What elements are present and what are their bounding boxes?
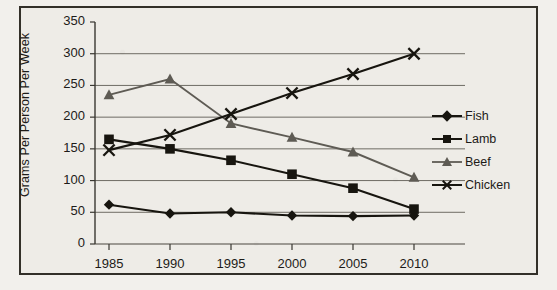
- x-tick-label: 1985: [79, 256, 139, 271]
- chart-legend: Fish Lamb Beef Chicken: [432, 104, 510, 196]
- legend-label-chicken: Chicken: [465, 178, 510, 192]
- legend-label-lamb: Lamb: [465, 132, 496, 146]
- legend-item-fish: Fish: [432, 104, 510, 127]
- y-tick-label: 200: [41, 108, 85, 123]
- legend-item-beef: Beef: [432, 150, 510, 173]
- x-tick-label: 1995: [201, 256, 261, 271]
- y-tick-label: 150: [41, 140, 85, 155]
- legend-label-fish: Fish: [465, 109, 489, 123]
- x-tick-label: 2000: [262, 256, 322, 271]
- x-tick-label: 1990: [140, 256, 200, 271]
- series-line-fish: [109, 205, 414, 216]
- y-tick-label: 300: [41, 45, 85, 60]
- series-line-beef: [109, 79, 414, 177]
- x-tick-label: 2010: [384, 256, 444, 271]
- legend-label-beef: Beef: [465, 155, 491, 169]
- series-line-chicken: [109, 54, 414, 150]
- series-line-lamb: [109, 139, 414, 209]
- lamb-marker-icon: [432, 132, 462, 146]
- y-tick-label: 100: [41, 172, 85, 187]
- legend-item-chicken: Chicken: [432, 173, 510, 196]
- y-tick-label: 50: [41, 203, 85, 218]
- chicken-marker-icon: [432, 178, 462, 192]
- legend-item-lamb: Lamb: [432, 127, 510, 150]
- y-tick-label: 350: [41, 13, 85, 28]
- y-tick-label: 0: [41, 235, 85, 250]
- fish-marker-icon: [432, 109, 462, 123]
- x-tick-label: 2005: [323, 256, 383, 271]
- beef-marker-icon: [432, 155, 462, 169]
- y-tick-label: 250: [41, 76, 85, 91]
